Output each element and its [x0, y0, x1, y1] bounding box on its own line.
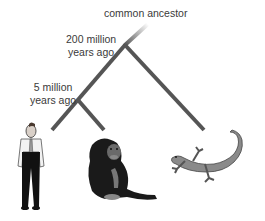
branch-lizard — [125, 45, 204, 130]
node-5-label: 5 million years ago — [30, 81, 76, 106]
chimpanzee-icon — [88, 138, 157, 200]
branch-chimpanzee — [78, 100, 104, 130]
root-branch — [125, 24, 148, 45]
common-ancestor-label: common ancestor — [104, 7, 187, 19]
node-200-line1: 200 million — [66, 33, 116, 46]
node-5-line2: years ago — [30, 94, 76, 107]
node-200-label: 200 million years ago — [66, 33, 116, 58]
phylogenetic-tree — [0, 0, 265, 221]
node-200-line2: years ago — [66, 46, 116, 59]
lizard-icon — [172, 130, 243, 182]
root-label: common ancestor — [104, 7, 187, 20]
node-5-line1: 5 million — [30, 81, 76, 94]
human-figure-icon — [18, 123, 44, 211]
